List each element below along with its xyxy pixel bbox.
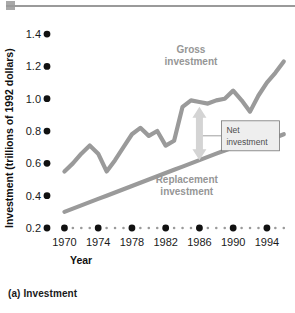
x-tick-dot: [230, 225, 237, 232]
x-tick-label: 1982: [153, 236, 177, 248]
series-label-line1: Gross: [177, 44, 206, 55]
x-minor-tick-dot: [88, 227, 91, 230]
x-tick-dot: [264, 225, 271, 232]
x-tick-label: 1994: [255, 236, 279, 248]
x-minor-tick-dot: [207, 227, 210, 230]
y-tick-dot: [44, 95, 51, 102]
x-tick-label: 1986: [187, 236, 211, 248]
net-investment-callout: Net investment: [203, 121, 280, 151]
x-minor-tick-dot: [122, 227, 125, 230]
x-minor-tick-dot: [274, 227, 277, 230]
x-minor-tick-dot: [215, 227, 218, 230]
x-minor-tick-dot: [80, 227, 83, 230]
investment-figure: 0.20.40.60.81.01.21.4 197019741978198219…: [0, 0, 295, 313]
x-tick-dot: [162, 225, 169, 232]
x-axis-tick-labels: 1970197419781982198619901994: [52, 236, 279, 248]
x-minor-tick-dot: [257, 227, 260, 230]
x-tick-label: 1978: [120, 236, 144, 248]
x-minor-tick-dot: [240, 227, 243, 230]
y-axis-tick-labels: 0.20.40.60.81.01.21.4: [26, 28, 41, 234]
net-investment-label-line2: investment: [226, 137, 268, 147]
x-minor-tick-dot: [190, 227, 193, 230]
y-tick-label: 0.8: [26, 125, 41, 137]
x-minor-tick-dot: [148, 227, 151, 230]
y-tick-label: 0.2: [26, 222, 41, 234]
y-tick-dot: [44, 225, 51, 232]
series-label-line2: investment: [165, 56, 218, 67]
y-tick-label: 1.0: [26, 93, 41, 105]
figure-caption: (a) Investment: [8, 288, 77, 299]
x-minor-tick-dot: [282, 227, 285, 230]
x-minor-tick-dot: [72, 227, 75, 230]
x-minor-tick-dot: [139, 227, 142, 230]
x-tick-label: 1990: [221, 236, 245, 248]
y-axis-title: Investment (trillions of 1992 dollars): [3, 48, 15, 228]
x-minor-tick-dot: [156, 227, 159, 230]
net-investment-double-arrow: [192, 107, 206, 160]
x-tick-dot: [61, 225, 68, 232]
x-minor-tick-dot: [105, 227, 108, 230]
investment-line-chart: 0.20.40.60.81.01.21.4 197019741978198219…: [0, 0, 295, 285]
y-tick-label: 0.6: [26, 157, 41, 169]
series-line: [64, 62, 283, 172]
y-tick-dot: [44, 128, 51, 135]
x-tick-label: 1974: [86, 236, 110, 248]
x-axis-tick-dots: [61, 225, 270, 232]
x-tick-label: 1970: [52, 236, 76, 248]
y-tick-label: 1.2: [26, 60, 41, 72]
x-tick-dot: [196, 225, 203, 232]
x-axis-title: Year: [70, 254, 92, 266]
y-axis-tick-dots: [44, 31, 51, 232]
x-axis-minor-tick-dots: [72, 227, 286, 230]
x-minor-tick-dot: [114, 227, 117, 230]
x-tick-dot: [95, 225, 102, 232]
x-minor-tick-dot: [173, 227, 176, 230]
x-minor-tick-dot: [249, 227, 252, 230]
y-tick-label: 1.4: [26, 28, 41, 40]
y-tick-dot: [44, 31, 51, 38]
x-minor-tick-dot: [181, 227, 184, 230]
x-tick-dot: [129, 225, 136, 232]
y-tick-dot: [44, 63, 51, 70]
y-tick-dot: [44, 192, 51, 199]
header-rule-decoration: [6, 5, 295, 7]
series-inline-labels: GrossinvestmentReplacementinvestment: [156, 44, 219, 196]
y-tick-dot: [44, 160, 51, 167]
series-label-line1: Replacement: [156, 174, 219, 185]
net-investment-label-line1: Net: [226, 125, 240, 135]
x-minor-tick-dot: [223, 227, 226, 230]
y-tick-label: 0.4: [26, 190, 41, 202]
net-investment-arrow: [192, 107, 206, 160]
series-label-line2: investment: [160, 186, 213, 197]
